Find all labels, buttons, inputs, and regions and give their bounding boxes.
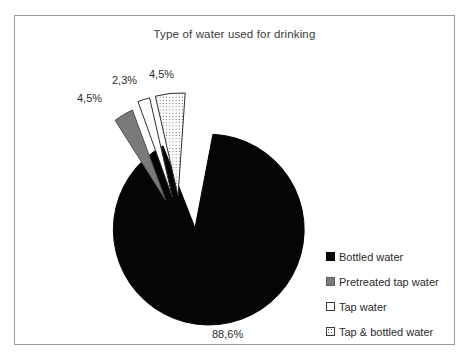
dotted-square-swatch-icon — [326, 327, 335, 336]
legend-item-tap-water: Tap water — [326, 294, 466, 319]
legend-item-pretreated-tap-water: Pretreated tap water — [326, 269, 466, 294]
data-label-tap-water: 2,3% — [112, 74, 137, 86]
legend-item-tap-and-bottled-water: Tap & bottled water — [326, 319, 466, 344]
black-square-swatch-icon — [326, 252, 335, 261]
data-label-pretreated-tap-water: 4,5% — [77, 92, 102, 104]
legend-label-pretreated-tap-water: Pretreated tap water — [339, 276, 439, 288]
gray-square-swatch-icon — [326, 277, 335, 286]
legend-item-bottled-water: Bottled water — [326, 244, 466, 269]
chart-frame: Type of water used for drinking 4,5% 2,3… — [14, 15, 455, 345]
legend-label-bottled-water: Bottled water — [339, 251, 403, 263]
data-label-bottled-water: 88,6% — [212, 328, 243, 340]
legend-label-tap-water: Tap water — [339, 301, 387, 313]
legend-label-tap-and-bottled-water: Tap & bottled water — [339, 326, 433, 338]
chart-legend: Bottled water Pretreated tap water Tap w… — [326, 244, 466, 344]
white-square-swatch-icon — [326, 302, 335, 311]
data-label-tap-and-bottled-water: 4,5% — [149, 68, 174, 80]
